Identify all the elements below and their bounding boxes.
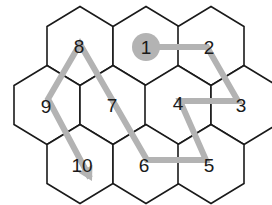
hex-path-diagram: 12345678910 <box>0 0 272 205</box>
cell-label-7: 7 <box>107 95 118 116</box>
cell-label-10: 10 <box>71 155 92 176</box>
cell-label-2: 2 <box>204 37 215 58</box>
cell-label-1: 1 <box>141 37 152 58</box>
cell-label-4: 4 <box>173 93 184 114</box>
diagram-canvas: 12345678910 <box>0 0 272 205</box>
cell-label-8: 8 <box>74 36 85 57</box>
cell-label-9: 9 <box>41 96 52 117</box>
cell-label-6: 6 <box>139 155 150 176</box>
cell-label-5: 5 <box>204 155 215 176</box>
cell-label-3: 3 <box>236 95 247 116</box>
